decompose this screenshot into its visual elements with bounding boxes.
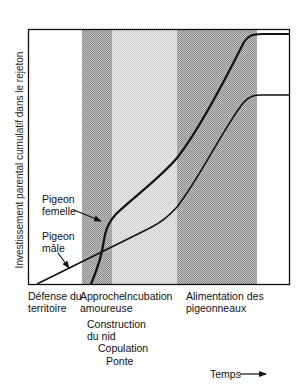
phase-alimentation-line2: pigeonneaux	[186, 302, 246, 314]
male-label-line2: mâle	[42, 242, 65, 254]
phase-defense-line2: territoire	[28, 302, 67, 314]
y-axis-label: Investissement parental cumulatif dans l…	[14, 52, 25, 269]
event-construction-line1: Construction	[87, 318, 146, 330]
band-incubation	[112, 29, 177, 284]
phase-approche-line1: Approche	[80, 290, 125, 302]
event-copulation: Copulation	[98, 342, 148, 354]
phase-approche-line2: amoureuse	[80, 302, 133, 314]
phase-alimentation-line1: Alimentation des	[186, 290, 264, 302]
phase-defense-line1: Défense du	[28, 290, 82, 302]
male-label-line1: Pigeon	[42, 230, 75, 242]
time-label: Temps	[210, 368, 241, 380]
phase-incubation: Incubation	[124, 290, 172, 302]
male-pointer-arrow	[58, 253, 69, 268]
female-label-line1: Pigeon	[42, 193, 75, 205]
event-ponte: Ponte	[106, 355, 133, 367]
band-approche-amoureuse	[82, 29, 112, 284]
band-alimentation	[177, 29, 257, 284]
event-construction-line2: du nid	[87, 330, 116, 342]
female-label-line2: femelle	[42, 205, 76, 217]
